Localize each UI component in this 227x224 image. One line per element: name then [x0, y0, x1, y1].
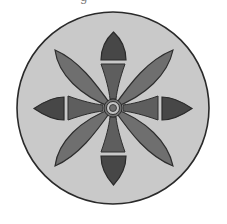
rosette-emblem [0, 0, 227, 224]
center-ring [104, 99, 122, 117]
